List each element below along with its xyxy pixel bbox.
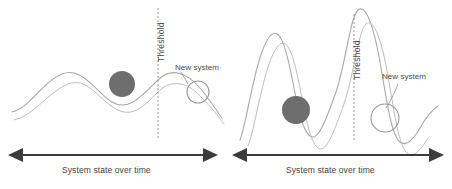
threshold-label: Threshold bbox=[352, 40, 362, 80]
axis-label-system-state: System state over time bbox=[286, 165, 375, 175]
axis-label-system-state: System state over time bbox=[62, 165, 151, 175]
panel-deep-basin: Threshold New system System state over t… bbox=[226, 0, 452, 189]
new-system-label: New system bbox=[175, 63, 219, 72]
panel-shallow-basin: Threshold New system System state over t… bbox=[0, 0, 226, 189]
new-system-leader-line bbox=[181, 72, 188, 84]
resilience-landscape-figure: Threshold New system System state over t… bbox=[0, 0, 452, 189]
threshold-label: Threshold bbox=[156, 22, 166, 62]
deep-landscape-lower-curve bbox=[248, 23, 428, 155]
new-system-ball bbox=[187, 81, 209, 103]
system-state-axis-arrow bbox=[232, 148, 444, 162]
current-state-ball bbox=[109, 71, 135, 97]
shallow-basin-drawing bbox=[0, 0, 226, 189]
current-state-ball bbox=[282, 96, 310, 124]
system-state-axis-arrow bbox=[8, 148, 218, 162]
new-system-label: New system bbox=[382, 72, 426, 81]
deep-basin-drawing bbox=[226, 0, 452, 189]
